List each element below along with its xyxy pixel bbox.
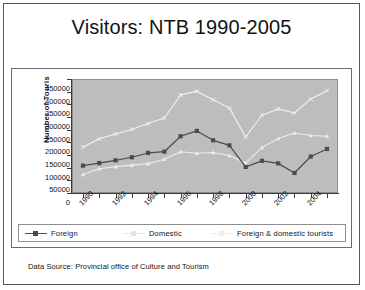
x-tick-mark xyxy=(294,194,295,198)
plot-series-svg xyxy=(72,79,338,193)
data-point-marker xyxy=(260,159,264,163)
y-tick-label: 400000 xyxy=(28,98,70,106)
data-point-marker xyxy=(179,134,183,138)
x-tick-mark xyxy=(229,194,230,198)
series-line-foreign-domestic-tourists xyxy=(83,91,327,147)
data-point-marker xyxy=(81,145,85,149)
y-tick-mark xyxy=(67,104,72,105)
x-tick-mark xyxy=(83,194,84,198)
legend-key-icon xyxy=(211,229,233,238)
x-axis-tick-labels: 19901992199419961998200020022004 xyxy=(12,195,353,223)
plot-area xyxy=(72,79,338,193)
legend-label: Foreign & domestic tourists xyxy=(237,229,333,238)
x-tick-mark xyxy=(327,194,328,198)
y-tick-label: 450000 xyxy=(28,85,70,93)
y-tick-label: 150000 xyxy=(28,161,70,169)
y-tick-mark xyxy=(67,142,72,143)
legend-key-icon xyxy=(25,229,47,238)
legend-item[interactable]: Foreign & domestic tourists xyxy=(211,228,333,239)
x-tick-mark xyxy=(311,194,312,198)
data-point-marker xyxy=(309,97,313,101)
data-point-marker xyxy=(325,89,329,93)
legend-item[interactable]: Foreign xyxy=(25,228,78,239)
x-tick-mark xyxy=(278,194,279,198)
data-point-marker xyxy=(130,155,134,159)
y-tick-mark xyxy=(67,155,72,156)
legend-label: Foreign xyxy=(51,229,78,238)
y-tick-mark xyxy=(67,92,72,93)
data-point-marker xyxy=(227,143,231,147)
y-tick-label: 100000 xyxy=(28,174,70,182)
y-tick-mark xyxy=(67,193,72,194)
x-tick-mark xyxy=(99,194,100,198)
data-point-marker xyxy=(195,129,199,133)
data-point-marker xyxy=(162,150,166,154)
data-point-marker xyxy=(97,161,101,165)
x-tick-mark xyxy=(197,194,198,198)
x-tick-mark xyxy=(116,194,117,198)
x-tick-mark xyxy=(148,194,149,198)
data-point-marker xyxy=(227,106,231,110)
data-point-marker xyxy=(211,98,215,102)
data-point-marker xyxy=(113,158,117,162)
y-tick-label: 300000 xyxy=(28,123,70,131)
slide-frame: Visitors: NTB 1990-2005 Number of Touris… xyxy=(3,3,360,285)
legend-marker xyxy=(33,231,38,236)
y-tick-label: 200000 xyxy=(28,148,70,156)
legend-key-icon xyxy=(123,229,145,238)
data-point-marker xyxy=(276,161,280,165)
data-point-marker xyxy=(325,147,329,151)
y-tick-mark xyxy=(67,130,72,131)
data-point-marker xyxy=(292,171,296,175)
chart-legend: ForeignDomesticForeign & domestic touris… xyxy=(18,224,346,242)
y-tick-label: 350000 xyxy=(28,110,70,118)
x-tick-mark xyxy=(213,194,214,198)
y-tick-mark xyxy=(67,117,72,118)
y-tick-label: 250000 xyxy=(28,136,70,144)
data-point-marker xyxy=(244,165,248,169)
data-point-marker xyxy=(146,151,150,155)
x-axis-line xyxy=(71,193,339,194)
data-point-marker xyxy=(309,154,313,158)
y-axis-tick-labels: 4500004000003500003000002500002000001500… xyxy=(28,79,70,193)
legend-marker xyxy=(219,231,224,236)
x-tick-mark xyxy=(262,194,263,198)
y-tick-mark xyxy=(67,168,72,169)
data-point-marker xyxy=(81,164,85,168)
chart-object[interactable]: Number of Touris 45000040000035000030000… xyxy=(11,68,352,248)
data-point-marker xyxy=(211,138,215,142)
x-tick-mark xyxy=(132,194,133,198)
x-tick-mark xyxy=(181,194,182,198)
data-source-note: Data Source: Provincial office of Cultur… xyxy=(28,262,209,271)
slide-title: Visitors: NTB 1990-2005 xyxy=(4,16,359,39)
data-point-marker xyxy=(244,135,248,139)
series-line-domestic xyxy=(83,133,327,175)
y-tick-mark xyxy=(67,180,72,181)
y-tick-mark xyxy=(67,79,72,80)
y-tick-label: 50000 xyxy=(28,186,70,194)
legend-item[interactable]: Domestic xyxy=(123,228,182,239)
legend-marker xyxy=(131,231,136,236)
legend-label: Domestic xyxy=(149,229,182,238)
x-tick-mark xyxy=(164,194,165,198)
x-tick-mark xyxy=(246,194,247,198)
